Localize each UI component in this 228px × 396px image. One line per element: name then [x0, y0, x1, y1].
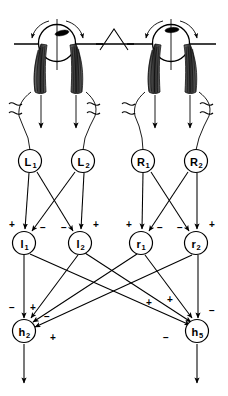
break-symbol-3 — [122, 103, 135, 115]
node-R2-sub: 2 — [199, 161, 203, 170]
node-h5-label: h — [192, 326, 199, 338]
node-l1-sub: 1 — [25, 243, 29, 252]
node-L2-label: L — [78, 156, 85, 168]
node-L1-sub: 1 — [33, 161, 37, 170]
sign-h5-b: + — [167, 294, 173, 305]
node-l1[interactable]: l 1 — [13, 232, 36, 255]
node-h5[interactable]: h 5 — [186, 320, 209, 343]
right-eye — [146, 19, 197, 94]
sign-h2-d: + — [50, 332, 56, 343]
sign-h5-c: − — [209, 305, 215, 316]
sign-r2-right: + — [209, 219, 215, 230]
node-h2[interactable]: h 2 — [13, 320, 36, 343]
node-r1[interactable]: r 1 — [130, 232, 153, 255]
node-h2-sub: 2 — [26, 331, 30, 340]
figure-canvas: L 1 L 2 R 1 R 2 l 1 — [0, 0, 228, 396]
motor-output-arrows — [24, 344, 197, 383]
sign-l2-right: + — [93, 219, 99, 230]
node-R1[interactable]: R 1 — [132, 150, 155, 173]
sign-r2-left: − — [177, 222, 183, 233]
node-h2-label: h — [19, 326, 26, 338]
sign-l1-left: + — [9, 219, 15, 230]
motor-sign-marks: − + − + + + − − — [9, 294, 215, 343]
node-l2-label: l — [77, 238, 80, 250]
interneuron-to-motor-edges — [24, 253, 198, 327]
afferent-efferent-paths — [9, 92, 213, 150]
node-r2-sub: 2 — [197, 243, 201, 252]
node-L2[interactable]: L 2 — [72, 150, 95, 173]
node-l2[interactable]: l 2 — [69, 232, 92, 255]
node-L2-sub: 2 — [86, 161, 90, 170]
motor-output-layer: h 2 h 5 — [13, 320, 209, 343]
node-r1-sub: 1 — [142, 243, 146, 252]
sign-h2-b: + — [30, 302, 36, 313]
interneuron-layer: l 1 l 2 r 1 r 2 — [13, 232, 208, 255]
sign-r1-right: − — [157, 222, 163, 233]
node-l2-sub: 2 — [81, 243, 85, 252]
sign-r1-left: + — [126, 219, 132, 230]
nose-triangle — [100, 29, 128, 50]
node-l1-label: l — [21, 238, 24, 250]
node-L1[interactable]: L 1 — [19, 150, 42, 173]
node-L1-label: L — [25, 156, 32, 168]
sensory-to-interneuron-edges — [25, 172, 197, 231]
node-R2-label: R — [190, 156, 198, 168]
network-diagram: L 1 L 2 R 1 R 2 l 1 — [0, 0, 228, 396]
break-symbol-2 — [87, 103, 100, 115]
sign-h5-d: − — [163, 332, 169, 343]
sign-l2-left: − — [61, 222, 67, 233]
sensory-layer: L 1 L 2 R 1 R 2 — [19, 150, 208, 173]
break-symbol-4 — [200, 103, 213, 115]
sign-h5-a: + — [146, 297, 152, 308]
interneuron-sign-marks: + − − + + − − + — [9, 219, 215, 233]
node-R1-sub: 1 — [146, 161, 150, 170]
break-symbol-1 — [9, 103, 22, 115]
sign-h2-a: − — [9, 302, 15, 313]
node-h5-sub: 5 — [199, 331, 203, 340]
node-r2[interactable]: r 2 — [185, 232, 208, 255]
sign-l1-right: − — [40, 222, 46, 233]
node-R1-label: R — [137, 156, 145, 168]
sign-h2-c: − — [44, 311, 50, 322]
left-eye — [32, 19, 83, 94]
node-R2[interactable]: R 2 — [185, 150, 208, 173]
